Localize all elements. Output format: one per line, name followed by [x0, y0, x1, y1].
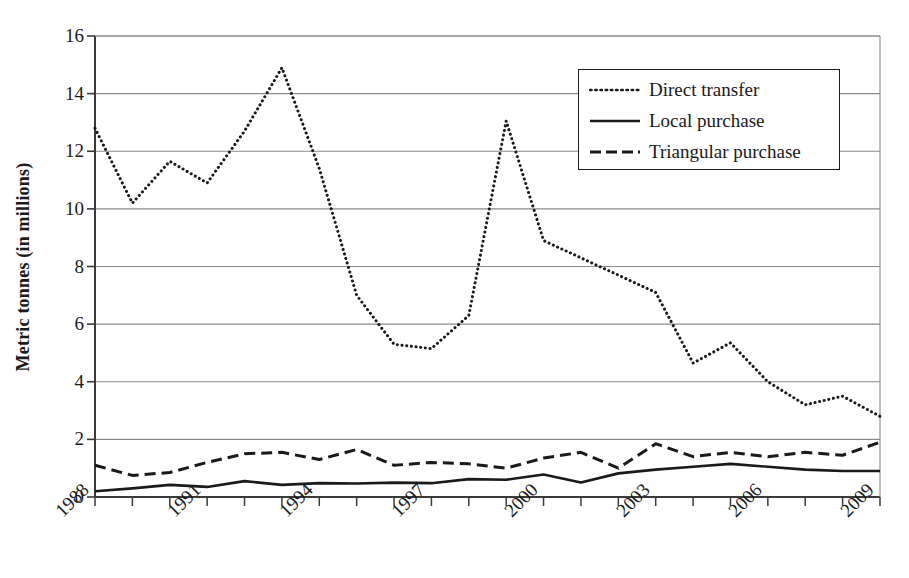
y-tick-label: 2 [75, 428, 85, 450]
legend-label-direct-transfer: Direct transfer [649, 79, 759, 101]
series-line-triangular-purchase [95, 442, 880, 475]
legend-item-local-purchase: Local purchase [589, 105, 833, 136]
y-tick-label: 12 [65, 140, 84, 162]
legend-box: Direct transfer Local purchase Triangula… [578, 69, 840, 170]
y-tick-label: 6 [75, 313, 85, 335]
y-tick-label: 8 [75, 256, 85, 278]
legend-item-triangular-purchase: Triangular purchase [589, 136, 833, 167]
y-tick-label: 16 [65, 25, 84, 47]
series-line-local-purchase [95, 464, 880, 491]
y-tick-label: 10 [65, 198, 84, 220]
legend-item-direct-transfer: Direct transfer [589, 74, 833, 105]
y-tick-label: 4 [75, 371, 85, 393]
legend-label-triangular-purchase: Triangular purchase [649, 141, 801, 163]
y-axis-ticks [87, 36, 95, 497]
y-tick-label: 14 [65, 83, 84, 105]
legend-swatch-dashed [589, 145, 641, 159]
legend-label-local-purchase: Local purchase [649, 110, 765, 132]
x-axis-tick-labels: 19881991199419972000200320062009 [0, 506, 909, 578]
y-axis-title-text: Metric tonnes (in millions) [13, 163, 34, 372]
legend-swatch-solid [589, 114, 641, 128]
legend-swatch-dotted [589, 83, 641, 97]
y-axis-title: Metric tonnes (in millions) [6, 36, 40, 498]
line-chart-figure: Metric tonnes (in millions) 024681012141… [0, 0, 909, 578]
